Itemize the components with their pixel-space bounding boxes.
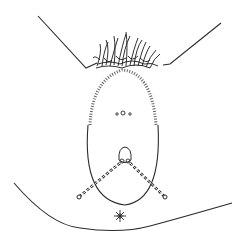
oval-outline bbox=[87, 125, 158, 205]
hair-tuft-icon bbox=[93, 32, 160, 68]
endpoint-right-icon bbox=[163, 195, 167, 199]
star-marker-icon bbox=[114, 210, 126, 222]
upper-outline bbox=[38, 16, 221, 68]
dotted-outline bbox=[90, 70, 156, 125]
illustration bbox=[0, 0, 247, 251]
endpoint-left-icon bbox=[77, 195, 81, 199]
small-circles-icon bbox=[116, 111, 131, 115]
lower-curve bbox=[14, 183, 232, 231]
loop-shape bbox=[119, 147, 131, 163]
